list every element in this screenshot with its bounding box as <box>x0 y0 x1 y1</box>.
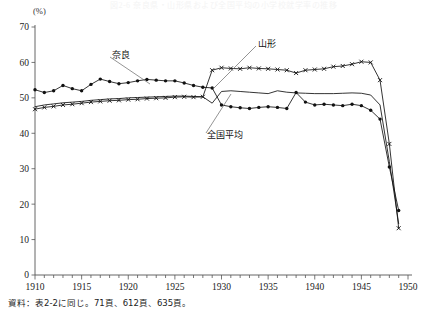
x-axis-tick-label: 1940 <box>305 282 324 292</box>
series-label-national-average: 全国平均 <box>207 128 243 141</box>
y-axis-tick-label: 60 <box>20 58 30 68</box>
x-axis-tick-label: 1920 <box>119 282 138 292</box>
annotation-leader-0 <box>110 57 150 84</box>
figure-container: 図2-6 奈良県・山形県および全国平均の小学校就学率の推移 (%) 010203… <box>0 0 447 317</box>
x-axis-tick-label: 1925 <box>165 282 184 292</box>
y-axis-tick-label: 30 <box>20 164 30 174</box>
series-label-yamagata: 山形 <box>258 37 276 50</box>
x-axis-tick-label: 1945 <box>352 282 371 292</box>
series-national-average <box>35 91 399 224</box>
y-axis-tick-label: 50 <box>20 93 30 103</box>
chart-plot: 0102030405060701910191519201925193019351… <box>0 0 447 317</box>
x-axis-tick-label: 1950 <box>399 282 418 292</box>
y-axis-tick-label: 0 <box>24 270 29 280</box>
x-axis-tick-label: 1910 <box>26 282 45 292</box>
y-axis-tick-label: 70 <box>20 22 30 32</box>
y-axis-tick-label: 10 <box>20 235 30 245</box>
source-note: 資料：表2-2に同じ。71頁、612頁、635頁。 <box>8 296 191 308</box>
y-axis-tick-label: 20 <box>20 200 30 210</box>
x-axis-tick-label: 1930 <box>212 282 231 292</box>
y-axis-tick-label: 40 <box>20 129 30 139</box>
annotation-leaders <box>110 46 256 133</box>
x-axis-tick-label: 1915 <box>72 282 91 292</box>
series-label-nara: 奈良 <box>112 48 130 61</box>
x-axis-tick-label: 1935 <box>259 282 278 292</box>
